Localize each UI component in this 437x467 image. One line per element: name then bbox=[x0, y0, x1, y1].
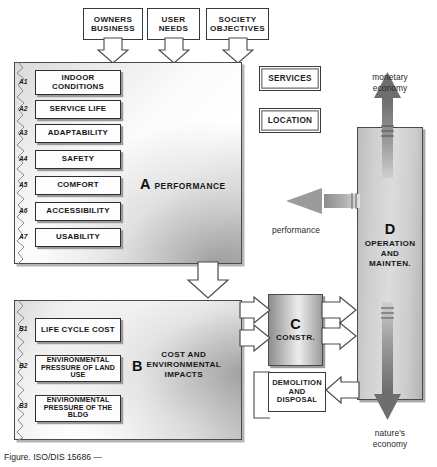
panel-b-label: B COST AND ENVIRONMENTAL IMPACTS bbox=[132, 350, 221, 380]
arrow-down-owners-business bbox=[98, 38, 128, 63]
item-b1: LIFE CYCLE COST bbox=[35, 318, 121, 342]
item-a6-label: ACCESSIBILITY bbox=[46, 207, 109, 216]
tag-a6: A6 bbox=[19, 207, 27, 214]
tag-a3: A3 bbox=[19, 129, 27, 136]
arrow-a-to-b bbox=[186, 262, 242, 300]
label-monetary-economy: monetary economy bbox=[348, 72, 432, 93]
panel-d-label: D OPERATION AND MAINTEN. bbox=[357, 222, 423, 269]
item-a6: ACCESSIBILITY bbox=[35, 202, 121, 221]
tag-b2: B2 bbox=[19, 362, 27, 369]
panel-b-letter: B bbox=[132, 359, 142, 374]
label-nature-line2: economy bbox=[348, 439, 432, 450]
panel-b-label-line1: COST AND bbox=[146, 350, 221, 360]
connector-b-to-demolition bbox=[240, 360, 274, 432]
item-a7-label: USABILITY bbox=[56, 233, 100, 242]
item-a5: COMFORT bbox=[35, 176, 121, 195]
panel-d-letter: D bbox=[357, 222, 423, 237]
item-a7: USABILITY bbox=[35, 228, 121, 247]
item-a1: INDOOR CONDITIONS bbox=[35, 70, 121, 95]
panel-a-label: A PERFORMANCE bbox=[140, 177, 226, 192]
arrow-d-to-demolition bbox=[325, 378, 361, 406]
label-nature-line1: nature's bbox=[348, 428, 432, 439]
figure-caption-text: Figure. ISO/DIS 15686 — bbox=[4, 452, 304, 462]
tag-b1: B1 bbox=[19, 325, 27, 332]
item-a4: SAFETY bbox=[35, 150, 121, 169]
tag-a4: A4 bbox=[19, 155, 27, 162]
context-box-location: LOCATION bbox=[259, 108, 321, 133]
item-b2-label-line2: PRESSURE OF LAND USE bbox=[36, 365, 120, 381]
input-label-line2: BUSINESS bbox=[91, 24, 135, 33]
item-a1-label: INDOOR CONDITIONS bbox=[36, 74, 120, 91]
tag-b3: B3 bbox=[19, 402, 27, 409]
input-label-line2: NEEDS bbox=[159, 24, 189, 33]
item-a5-label: COMFORT bbox=[57, 181, 99, 190]
panel-d-label-line3: MAINTEN. bbox=[357, 259, 423, 269]
panel-a-letter: A bbox=[140, 177, 150, 192]
input-label-line1: USER bbox=[162, 15, 186, 24]
arrow-c-to-d-upper bbox=[322, 297, 356, 323]
arrow-performance-feedback bbox=[280, 186, 364, 220]
item-b2: ENVIRONMENTAL PRESSURE OF LAND USE bbox=[35, 355, 121, 382]
tag-a2: A2 bbox=[19, 105, 27, 112]
demolition-line3: DISPOSAL bbox=[277, 396, 317, 405]
input-box-owners-business: OWNERS BUSINESS bbox=[83, 8, 143, 40]
figure-caption: Figure. ISO/DIS 15686 — bbox=[4, 452, 304, 462]
input-label-line1: SOCIETY bbox=[219, 15, 257, 24]
context-box-location-label: LOCATION bbox=[268, 116, 313, 125]
arrow-a-to-c bbox=[240, 297, 270, 323]
item-b3: ENVIRONMENTAL PRESSURE OF THE BLDG bbox=[35, 395, 121, 422]
input-box-society-objectives: SOCIETY OBJECTIVES bbox=[206, 8, 269, 40]
item-a3-label: ADAPTABILITY bbox=[48, 129, 108, 138]
panel-b-label-line2: ENVIRONMENTAL bbox=[146, 360, 221, 370]
arrow-natures-economy bbox=[366, 298, 414, 426]
label-monetary-line1: monetary bbox=[348, 72, 432, 83]
panel-a-label-text: PERFORMANCE bbox=[154, 181, 225, 191]
item-a2-label: SERVICE LIFE bbox=[50, 105, 107, 114]
tag-a1: A1 bbox=[19, 78, 27, 85]
context-box-services: SERVICES bbox=[259, 66, 321, 91]
panel-b-label-line3: IMPACTS bbox=[146, 370, 221, 380]
tag-a5: A5 bbox=[19, 181, 27, 188]
item-b3-label-line2: PRESSURE OF THE BLDG bbox=[36, 405, 120, 421]
label-natures-economy: nature's economy bbox=[348, 428, 432, 449]
arrow-c-to-d-lower bbox=[322, 323, 356, 349]
panel-c-letter: C bbox=[290, 317, 300, 332]
panel-d-label-line1: OPERATION bbox=[357, 239, 423, 249]
box-demolition-disposal: DEMOLITION AND DISPOSAL bbox=[268, 372, 326, 412]
panel-c-label: CONSTR. bbox=[276, 333, 315, 343]
item-b1-label: LIFE CYCLE COST bbox=[41, 326, 115, 335]
panel-d-label-line2: AND bbox=[357, 249, 423, 259]
label-monetary-line2: economy bbox=[348, 83, 432, 94]
arrows-c-to-d bbox=[322, 300, 360, 360]
item-a4-label: SAFETY bbox=[62, 155, 95, 164]
tag-a7: A7 bbox=[19, 233, 27, 240]
item-a2: SERVICE LIFE bbox=[35, 100, 121, 119]
input-label-line2: OBJECTIVES bbox=[210, 24, 265, 33]
arrows-into-c bbox=[240, 300, 272, 360]
panel-c-construction: C CONSTR. bbox=[268, 294, 323, 366]
label-performance-flow: performance bbox=[272, 225, 320, 235]
arrow-down-user-needs bbox=[159, 38, 189, 63]
context-box-services-label: SERVICES bbox=[268, 74, 312, 83]
arrow-b-to-c bbox=[240, 325, 270, 351]
diagram-canvas: OWNERS BUSINESS USER NEEDS SOCIETY OBJEC… bbox=[0, 0, 437, 467]
input-label-line1: OWNERS bbox=[94, 15, 133, 24]
arrow-down-society-objectives bbox=[223, 38, 253, 63]
item-a3: ADAPTABILITY bbox=[35, 124, 121, 143]
input-box-user-needs: USER NEEDS bbox=[147, 8, 200, 40]
